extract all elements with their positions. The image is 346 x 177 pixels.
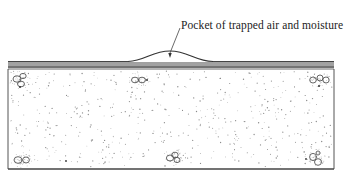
arrowhead-icon xyxy=(168,53,171,58)
annotation-label: Pocket of trapped air and moisture xyxy=(181,19,343,31)
membrane-layers xyxy=(8,63,334,69)
leader-line xyxy=(170,28,180,53)
substrate-slab xyxy=(8,69,334,169)
blister-diagram: Pocket of trapped air and moisture xyxy=(0,0,346,177)
